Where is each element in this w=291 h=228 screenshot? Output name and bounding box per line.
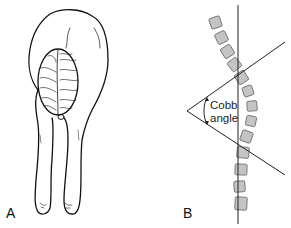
panel-label-a: A	[6, 205, 15, 221]
panel-label-b: B	[183, 205, 192, 221]
forward-bend-figure	[29, 10, 108, 214]
cobb-label-line1: Cobb	[210, 99, 238, 112]
cobb-angle-arc	[204, 98, 207, 124]
cobb-angle-label: Cobb angle	[210, 99, 238, 125]
figure-canvas	[0, 0, 291, 228]
cobb-label-line2: angle	[210, 112, 238, 125]
